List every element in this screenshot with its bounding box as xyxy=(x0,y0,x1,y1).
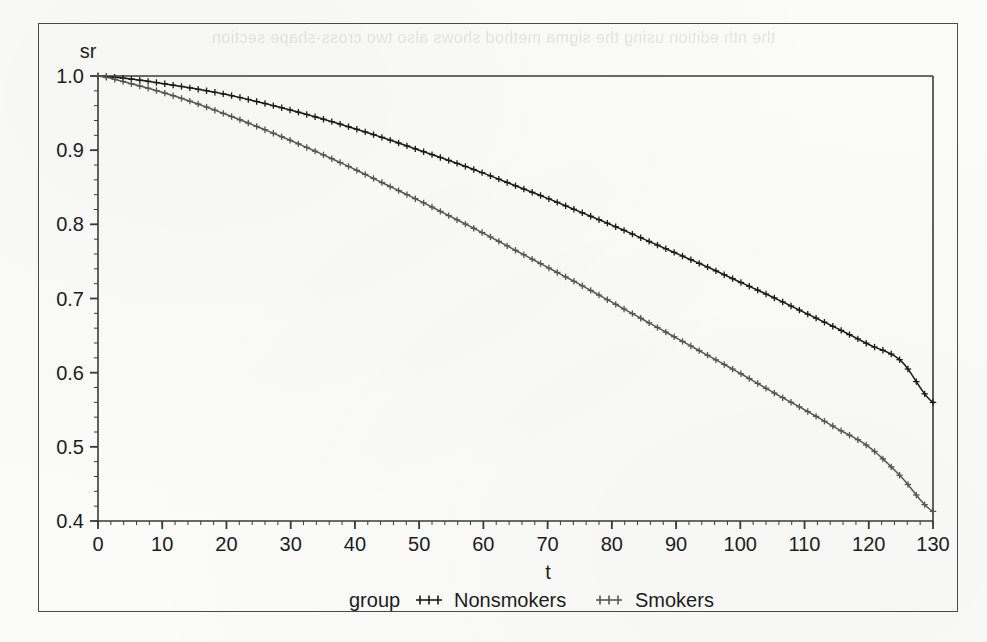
series-marker xyxy=(345,163,351,169)
series-marker xyxy=(245,120,251,126)
series-marker xyxy=(170,82,176,88)
series-marker xyxy=(120,78,126,84)
series-marker xyxy=(696,260,702,266)
series-marker xyxy=(479,229,485,235)
series-marker xyxy=(880,347,886,353)
series-marker xyxy=(312,148,318,154)
series-marker xyxy=(613,301,619,307)
series-marker xyxy=(604,297,610,303)
series-marker xyxy=(212,89,218,95)
series-marker xyxy=(571,278,577,284)
series-marker xyxy=(780,299,786,305)
series-marker xyxy=(153,87,159,93)
series-marker xyxy=(362,129,368,135)
series-marker xyxy=(237,117,243,123)
series-marker xyxy=(420,200,426,206)
y-axis-title: sr xyxy=(80,40,97,62)
series-marker xyxy=(546,196,552,202)
series-marker xyxy=(579,210,585,216)
y-axis-tick-label: 0.6 xyxy=(56,362,84,384)
series-marker xyxy=(796,404,802,410)
series-marker xyxy=(780,394,786,400)
series-marker xyxy=(170,92,176,98)
series-marker xyxy=(420,149,426,155)
series-marker xyxy=(295,109,301,115)
series-marker xyxy=(387,137,393,143)
series-marker xyxy=(512,183,518,189)
series-marker xyxy=(654,242,660,248)
series-marker xyxy=(312,114,318,120)
x-axis-tick-label: 10 xyxy=(151,533,173,555)
x-axis-title: t xyxy=(545,561,551,583)
series-marker xyxy=(571,206,577,212)
series-marker xyxy=(654,324,660,330)
series-marker xyxy=(704,352,710,358)
series-marker xyxy=(813,315,819,321)
series-marker xyxy=(329,118,335,124)
series-marker xyxy=(228,113,234,119)
series-marker xyxy=(546,265,552,271)
series-marker xyxy=(178,83,184,89)
y-axis-tick-label: 1.0 xyxy=(56,65,84,87)
x-axis-tick-label: 60 xyxy=(472,533,494,555)
series-marker xyxy=(153,79,159,85)
series-marker xyxy=(663,246,669,252)
series-marker xyxy=(613,224,619,230)
series-marker xyxy=(529,189,535,195)
x-axis-tick-label: 30 xyxy=(280,533,302,555)
series-marker xyxy=(813,413,819,419)
series-marker xyxy=(529,256,535,262)
series-marker xyxy=(279,134,285,140)
series-marker xyxy=(537,192,543,198)
series-marker xyxy=(554,269,560,275)
series-marker xyxy=(462,163,468,169)
series-marker xyxy=(729,275,735,281)
series-marker xyxy=(721,361,727,367)
series-marker xyxy=(579,283,585,289)
chart-legend: groupNonsmokersSmokers xyxy=(349,589,714,611)
series-marker xyxy=(145,85,151,91)
series-marker xyxy=(253,98,259,104)
series-marker xyxy=(412,195,418,201)
chart-svg: 0.40.50.60.70.80.91.00102030405060708090… xyxy=(39,24,959,613)
legend-label-nonsmokers: Nonsmokers xyxy=(454,589,566,611)
series-marker xyxy=(487,173,493,179)
series-marker xyxy=(429,204,435,210)
series-nonsmokers xyxy=(95,73,936,406)
series-marker xyxy=(395,140,401,146)
series-marker xyxy=(721,272,727,278)
series-marker xyxy=(646,320,652,326)
series-marker xyxy=(487,234,493,240)
y-axis-tick-label: 0.7 xyxy=(56,288,84,310)
series-marker xyxy=(838,428,844,434)
series-marker xyxy=(496,238,502,244)
legend-marker xyxy=(416,596,442,605)
series-marker xyxy=(679,338,685,344)
series-marker xyxy=(128,81,134,87)
series-marker xyxy=(195,101,201,107)
x-axis-tick-label: 110 xyxy=(789,533,821,555)
series-marker xyxy=(871,344,877,350)
series-line xyxy=(98,76,933,402)
series-marker xyxy=(521,252,527,258)
series-marker xyxy=(437,154,443,160)
series-marker xyxy=(279,105,285,111)
series-marker xyxy=(671,249,677,255)
series-marker xyxy=(337,159,343,165)
series-marker xyxy=(587,287,593,293)
series-smokers xyxy=(95,73,936,515)
series-marker xyxy=(863,340,869,346)
series-marker xyxy=(404,191,410,197)
series-marker xyxy=(830,323,836,329)
series-marker xyxy=(679,253,685,259)
series-marker xyxy=(304,111,310,117)
series-marker xyxy=(195,86,201,92)
series-marker xyxy=(688,343,694,349)
series-marker xyxy=(512,247,518,253)
series-marker xyxy=(638,315,644,321)
series-marker xyxy=(270,102,276,108)
series-marker xyxy=(805,311,811,317)
series-marker xyxy=(629,310,635,316)
series-marker xyxy=(354,167,360,173)
series-marker xyxy=(429,151,435,157)
